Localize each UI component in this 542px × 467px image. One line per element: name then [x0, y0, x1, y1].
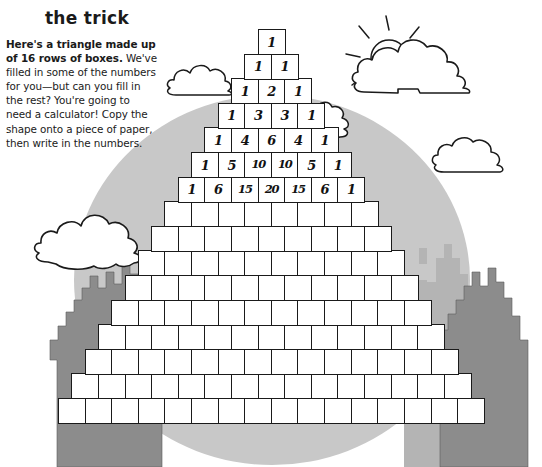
triangle-cell-filled[interactable]: 2 [258, 78, 286, 104]
triangle-cell-empty[interactable] [351, 250, 379, 276]
triangle-cell-empty[interactable] [218, 201, 246, 227]
triangle-cell-filled[interactable]: 1 [244, 54, 272, 80]
triangle-cell-empty[interactable] [218, 250, 246, 276]
triangle-cell-filled[interactable]: 1 [297, 103, 325, 129]
triangle-cell-empty[interactable] [231, 373, 259, 399]
triangle-cell-empty[interactable] [258, 226, 286, 252]
triangle-cell-filled[interactable]: 1 [284, 78, 312, 104]
triangle-cell-empty[interactable] [231, 226, 259, 252]
triangle-cell-empty[interactable] [284, 226, 312, 252]
triangle-cell-empty[interactable] [218, 300, 246, 326]
triangle-cell-empty[interactable] [457, 398, 485, 424]
triangle-cell-empty[interactable] [244, 250, 272, 276]
triangle-cell-empty[interactable] [178, 226, 206, 252]
triangle-cell-filled[interactable]: 5 [297, 152, 325, 178]
triangle-cell-empty[interactable] [125, 373, 153, 399]
triangle-cell-empty[interactable] [377, 349, 405, 375]
triangle-cell-empty[interactable] [297, 201, 325, 227]
triangle-cell-empty[interactable] [377, 398, 405, 424]
triangle-cell-empty[interactable] [231, 324, 259, 350]
triangle-cell-filled[interactable]: 1 [231, 78, 259, 104]
triangle-cell-empty[interactable] [271, 201, 299, 227]
triangle-cell-empty[interactable] [191, 250, 219, 276]
triangle-cell-empty[interactable] [164, 201, 192, 227]
triangle-cell-empty[interactable] [231, 275, 259, 301]
triangle-cell-empty[interactable] [125, 275, 153, 301]
triangle-cell-empty[interactable] [258, 373, 286, 399]
triangle-cell-empty[interactable] [324, 201, 352, 227]
triangle-cell-empty[interactable] [204, 226, 232, 252]
triangle-cell-filled[interactable]: 1 [178, 177, 206, 203]
triangle-cell-empty[interactable] [151, 373, 179, 399]
triangle-cell-empty[interactable] [337, 275, 365, 301]
triangle-cell-empty[interactable] [284, 275, 312, 301]
triangle-cell-empty[interactable] [258, 324, 286, 350]
triangle-cell-filled[interactable]: 6 [311, 177, 339, 203]
triangle-cell-empty[interactable] [151, 324, 179, 350]
triangle-cell-empty[interactable] [337, 373, 365, 399]
triangle-cell-filled[interactable]: 1 [271, 54, 299, 80]
triangle-cell-empty[interactable] [351, 349, 379, 375]
triangle-cell-empty[interactable] [364, 275, 392, 301]
triangle-cell-empty[interactable] [85, 398, 113, 424]
triangle-cell-filled[interactable]: 4 [231, 127, 259, 153]
triangle-cell-empty[interactable] [284, 373, 312, 399]
triangle-cell-empty[interactable] [337, 324, 365, 350]
triangle-cell-filled[interactable]: 1 [337, 177, 365, 203]
triangle-cell-empty[interactable] [391, 324, 419, 350]
triangle-cell-empty[interactable] [431, 349, 459, 375]
triangle-cell-filled[interactable]: 1 [258, 29, 286, 55]
triangle-cell-empty[interactable] [164, 398, 192, 424]
triangle-cell-filled[interactable]: 10 [244, 152, 272, 178]
triangle-cell-empty[interactable] [337, 226, 365, 252]
triangle-cell-filled[interactable]: 3 [271, 103, 299, 129]
triangle-cell-empty[interactable] [284, 324, 312, 350]
triangle-cell-empty[interactable] [364, 226, 392, 252]
triangle-cell-empty[interactable] [204, 324, 232, 350]
triangle-cell-empty[interactable] [364, 324, 392, 350]
triangle-cell-empty[interactable] [311, 324, 339, 350]
triangle-cell-empty[interactable] [324, 300, 352, 326]
triangle-cell-filled[interactable]: 1 [204, 127, 232, 153]
triangle-cell-empty[interactable] [311, 226, 339, 252]
triangle-cell-empty[interactable] [164, 349, 192, 375]
triangle-cell-filled[interactable]: 1 [324, 152, 352, 178]
triangle-cell-empty[interactable] [138, 300, 166, 326]
triangle-cell-filled[interactable]: 1 [311, 127, 339, 153]
triangle-cell-empty[interactable] [178, 275, 206, 301]
triangle-cell-empty[interactable] [404, 349, 432, 375]
triangle-cell-empty[interactable] [417, 373, 445, 399]
triangle-cell-empty[interactable] [417, 324, 445, 350]
triangle-cell-empty[interactable] [191, 398, 219, 424]
triangle-cell-empty[interactable] [71, 373, 99, 399]
triangle-cell-empty[interactable] [391, 275, 419, 301]
triangle-cell-empty[interactable] [404, 398, 432, 424]
triangle-cell-empty[interactable] [271, 300, 299, 326]
triangle-cell-empty[interactable] [271, 398, 299, 424]
triangle-cell-empty[interactable] [351, 398, 379, 424]
triangle-cell-empty[interactable] [58, 398, 86, 424]
triangle-cell-filled[interactable]: 3 [244, 103, 272, 129]
triangle-cell-empty[interactable] [324, 398, 352, 424]
triangle-cell-filled[interactable]: 6 [258, 127, 286, 153]
triangle-cell-empty[interactable] [204, 275, 232, 301]
triangle-cell-empty[interactable] [244, 201, 272, 227]
triangle-cell-empty[interactable] [244, 349, 272, 375]
triangle-cell-filled[interactable]: 5 [218, 152, 246, 178]
triangle-cell-empty[interactable] [85, 349, 113, 375]
triangle-cell-empty[interactable] [244, 300, 272, 326]
triangle-cell-filled[interactable]: 6 [204, 177, 232, 203]
triangle-cell-empty[interactable] [125, 324, 153, 350]
triangle-cell-empty[interactable] [164, 250, 192, 276]
triangle-cell-empty[interactable] [391, 373, 419, 399]
triangle-cell-filled[interactable]: 10 [271, 152, 299, 178]
triangle-cell-empty[interactable] [431, 398, 459, 424]
triangle-cell-empty[interactable] [98, 324, 126, 350]
triangle-cell-empty[interactable] [244, 398, 272, 424]
triangle-cell-empty[interactable] [351, 300, 379, 326]
triangle-cell-empty[interactable] [164, 300, 192, 326]
triangle-cell-filled[interactable]: 20 [258, 177, 286, 203]
triangle-cell-empty[interactable] [138, 250, 166, 276]
triangle-cell-empty[interactable] [444, 373, 472, 399]
triangle-cell-empty[interactable] [111, 398, 139, 424]
